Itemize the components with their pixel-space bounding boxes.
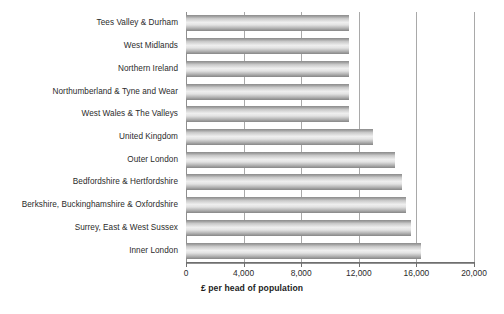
bar-chart: Tees Valley & DurhamWest MidlandsNorther…: [0, 0, 504, 314]
bar: [186, 84, 349, 100]
x-tick: [186, 262, 187, 267]
category-label: Northern Ireland: [0, 64, 178, 74]
x-tick-label: 0: [184, 268, 189, 279]
bar-row: [186, 152, 474, 168]
bar: [186, 152, 395, 168]
bar-row: [186, 38, 474, 54]
x-tick-label: 8,000: [291, 268, 312, 279]
bar: [186, 38, 349, 54]
bar-row: [186, 197, 474, 213]
category-label: West Midlands: [0, 41, 178, 51]
plot-area: [186, 12, 474, 262]
category-label: United Kingdom: [0, 132, 178, 142]
x-tick: [301, 262, 302, 267]
bar-row: [186, 220, 474, 236]
x-tick-label: 16,000: [404, 268, 430, 279]
x-tick-label: 4,000: [233, 268, 254, 279]
category-label: Surrey, East & West Sussex: [0, 223, 178, 233]
bar-row: [186, 15, 474, 31]
x-tick: [359, 262, 360, 267]
x-axis-line: [186, 262, 474, 264]
category-label: Bedfordshire & Hertfordshire: [0, 177, 178, 187]
x-axis-title-text: £ per head of population: [201, 283, 303, 293]
bar: [186, 243, 421, 259]
bar-row: [186, 106, 474, 122]
x-tick-label: 12,000: [346, 268, 372, 279]
bar: [186, 220, 411, 236]
category-label: Outer London: [0, 155, 178, 165]
category-label: Northumberland & Tyne and Wear: [0, 87, 178, 97]
x-tick: [474, 262, 475, 267]
category-label: Tees Valley & Durham: [0, 18, 178, 28]
gridline-20000: [474, 12, 475, 262]
x-tick: [244, 262, 245, 267]
x-tick: [416, 262, 417, 267]
category-axis-labels: Tees Valley & DurhamWest MidlandsNorther…: [0, 12, 182, 262]
bar: [186, 174, 402, 190]
bar: [186, 15, 349, 31]
x-tick-label: 20,000: [461, 268, 487, 279]
bar: [186, 129, 373, 145]
bar-row: [186, 61, 474, 77]
bar: [186, 106, 349, 122]
bar-row: [186, 84, 474, 100]
bar-row: [186, 243, 474, 259]
category-label: Berkshire, Buckinghamshire & Oxfordshire: [0, 200, 178, 210]
bar: [186, 61, 349, 77]
category-label: Inner London: [0, 246, 178, 256]
bar: [186, 197, 406, 213]
bar-row: [186, 174, 474, 190]
bar-row: [186, 129, 474, 145]
x-axis-title: £ per head of population: [0, 283, 504, 293]
category-label: West Wales & The Valleys: [0, 109, 178, 119]
